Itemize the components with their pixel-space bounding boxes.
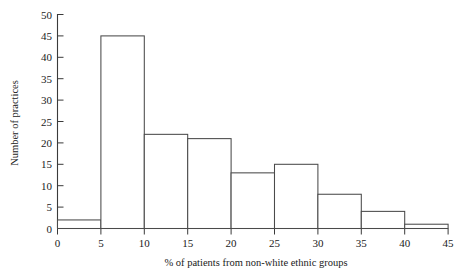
x-tick-label: 35 xyxy=(356,237,368,249)
x-tick-label: 25 xyxy=(269,237,281,249)
chart-background xyxy=(0,0,470,276)
histogram-bar xyxy=(101,36,144,229)
x-tick-label: 45 xyxy=(443,237,455,249)
x-tick-label: 40 xyxy=(399,237,411,249)
y-tick-label: 45 xyxy=(41,30,53,42)
y-tick-label: 20 xyxy=(41,137,53,149)
histogram-bar xyxy=(231,173,274,229)
histogram-bar xyxy=(275,164,318,228)
y-tick-label: 40 xyxy=(41,51,53,63)
x-axis-title: % of patients from non-white ethnic grou… xyxy=(164,257,347,268)
histogram-bar xyxy=(58,220,101,229)
histogram-bar xyxy=(405,224,448,228)
y-tick-label: 15 xyxy=(41,158,53,170)
histogram-bar xyxy=(318,194,361,228)
histogram-chart: Number of practices % of patients from n… xyxy=(0,0,470,276)
x-tick-label: 5 xyxy=(98,237,104,249)
histogram-bar xyxy=(188,139,231,229)
y-tick-label: 10 xyxy=(41,180,53,192)
y-tick-label: 25 xyxy=(41,116,53,128)
histogram-bar xyxy=(361,211,404,228)
x-tick-label: 0 xyxy=(55,237,61,249)
y-tick-label: 5 xyxy=(47,201,53,213)
x-tick-label: 30 xyxy=(312,237,324,249)
histogram-figure: Number of practices % of patients from n… xyxy=(0,0,470,276)
x-tick-label: 10 xyxy=(139,237,151,249)
y-tick-label: 35 xyxy=(41,73,53,85)
histogram-bar xyxy=(144,134,187,228)
y-tick-label: 30 xyxy=(41,94,53,106)
x-tick-label: 20 xyxy=(226,237,238,249)
y-tick-label: 0 xyxy=(47,223,53,235)
y-axis-title: Number of practices xyxy=(9,80,20,166)
y-tick-label: 50 xyxy=(41,9,53,21)
x-tick-label: 15 xyxy=(182,237,194,249)
